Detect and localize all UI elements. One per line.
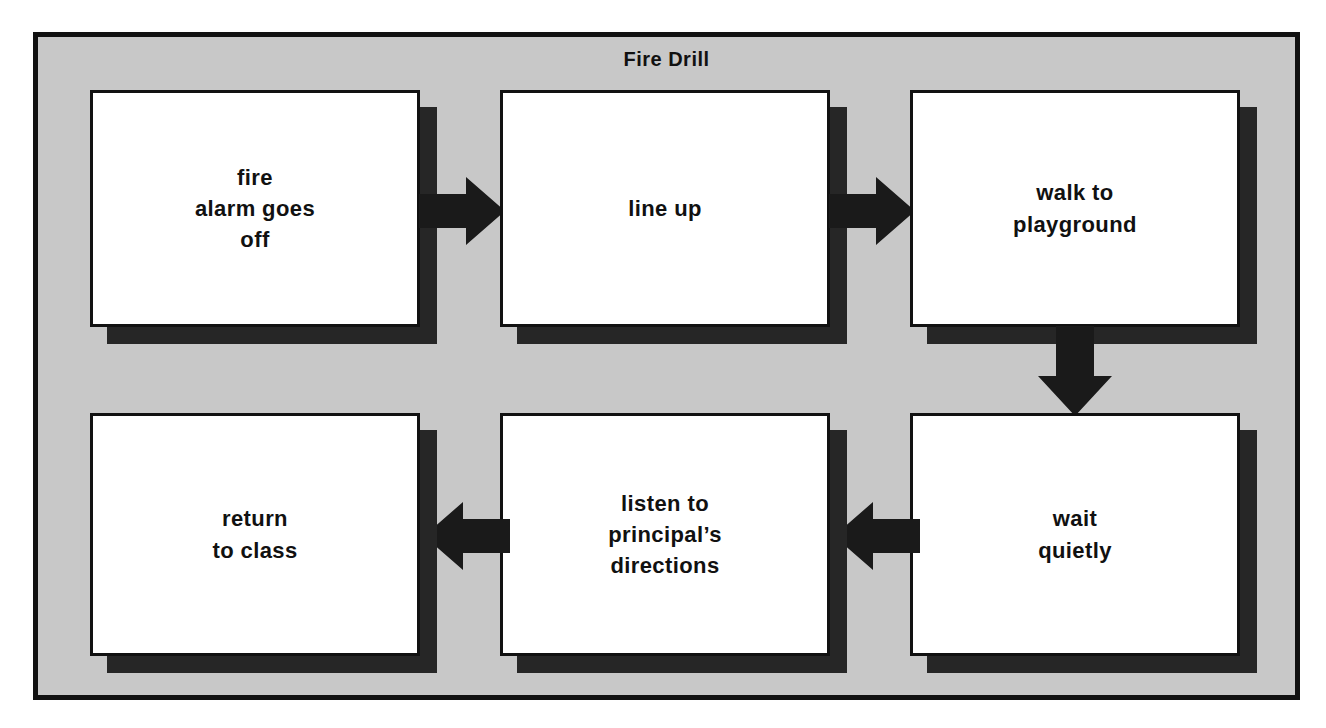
step-label: return to class: [202, 503, 307, 565]
arrow-right-icon: [419, 177, 505, 245]
page-title: Fire Drill: [38, 48, 1295, 71]
arrow-left-icon: [834, 502, 920, 570]
arrow-left-icon: [424, 502, 510, 570]
flowchart-step-walk-to-playground[interactable]: walk to playground: [910, 90, 1240, 327]
flowchart-step-wait-quietly[interactable]: wait quietly: [910, 413, 1240, 656]
arrow-right-icon: [829, 177, 915, 245]
step-label: listen to principal’s directions: [598, 488, 732, 582]
flowchart-step-fire-alarm-goes-off[interactable]: fire alarm goes off: [90, 90, 420, 327]
arrow-down-icon: [1038, 326, 1112, 416]
flowchart-step-return-to-class[interactable]: return to class: [90, 413, 420, 656]
flowchart-step-listen-to-principals-directions[interactable]: listen to principal’s directions: [500, 413, 830, 656]
flowchart-step-line-up[interactable]: line up: [500, 90, 830, 327]
step-label: walk to playground: [1003, 177, 1147, 239]
step-label: wait quietly: [1028, 503, 1122, 565]
fire-drill-flowchart-frame: Fire Drill fire alarm goes off line up w…: [33, 32, 1300, 700]
step-label: line up: [618, 193, 712, 224]
step-label: fire alarm goes off: [185, 162, 325, 256]
